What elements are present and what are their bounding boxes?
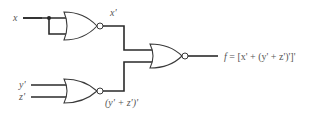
label-x-prime: x' [109,7,117,18]
nor-gate-1-bubble [97,23,103,29]
wire-x-to-gate1-bottom [49,18,67,34]
nor-gate-1 [64,12,103,40]
logic-circuit-diagram: x x' y' z' (y' + z')' f = [x' + (y' + z'… [0,0,323,114]
nor-gate-2-bubble [97,88,103,94]
wire-gate2-to-gate3 [103,62,153,91]
output-f-expression: = [x' + (y' + z')']' [227,51,296,63]
output-expression: f = [x' + (y' + z')']' [224,51,296,63]
nor-gate-3 [150,44,188,68]
input-label-z-prime: z' [18,91,26,102]
nor-gate-2 [64,79,103,103]
label-yz-nor: (y' + z')' [105,97,139,109]
nor-gate-3-body [150,44,182,68]
nor-gate-2-body [64,79,97,103]
input-label-y-prime: y' [18,79,26,90]
nor-gate-1-body [64,12,97,40]
nor-gate-3-bubble [182,53,188,59]
input-label-x: x [12,12,18,23]
wire-gate1-to-gate3 [103,26,153,50]
